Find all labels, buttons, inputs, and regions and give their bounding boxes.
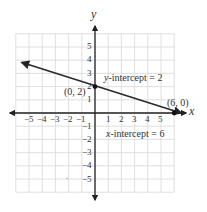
- x-tick: 2: [119, 115, 124, 124]
- x-intercept-annotation: x-intercept = 6: [106, 129, 164, 139]
- y-tick: 1: [87, 95, 92, 104]
- y-tick: 3: [87, 69, 92, 78]
- x-axis-label: x: [189, 106, 194, 116]
- y-intercept-annotation: y-intercept = 2: [104, 73, 162, 83]
- x-tick: 1: [106, 115, 111, 124]
- x-intercept-text: -intercept = 6: [110, 128, 164, 139]
- x-tick: −2: [63, 115, 73, 124]
- x-tick: 3: [132, 115, 137, 124]
- y-axis-label: y: [91, 9, 96, 19]
- y-tick: −4: [82, 161, 92, 170]
- y-tick: 2: [87, 82, 92, 91]
- y-tick: 5: [87, 42, 92, 51]
- x-tick: −1: [76, 115, 86, 124]
- point-y-intercept: [93, 84, 98, 89]
- y-tick: −5: [82, 175, 92, 184]
- point-label-y-intercept: (0, 2): [64, 87, 86, 97]
- y-intercept-text: -intercept = 2: [108, 72, 162, 83]
- y-tick: −2: [82, 135, 92, 144]
- x-tick: 5: [158, 115, 163, 124]
- point-x-intercept: [172, 111, 177, 116]
- x-tick: 4: [145, 115, 150, 124]
- y-tick: −3: [82, 148, 92, 157]
- data-line: [22, 63, 181, 114]
- point-label-x-intercept: (6, 0): [167, 98, 189, 108]
- y-tick: 4: [87, 55, 92, 64]
- x-tick: −4: [37, 115, 47, 124]
- x-tick: −5: [24, 115, 34, 124]
- x-tick: −3: [50, 115, 60, 124]
